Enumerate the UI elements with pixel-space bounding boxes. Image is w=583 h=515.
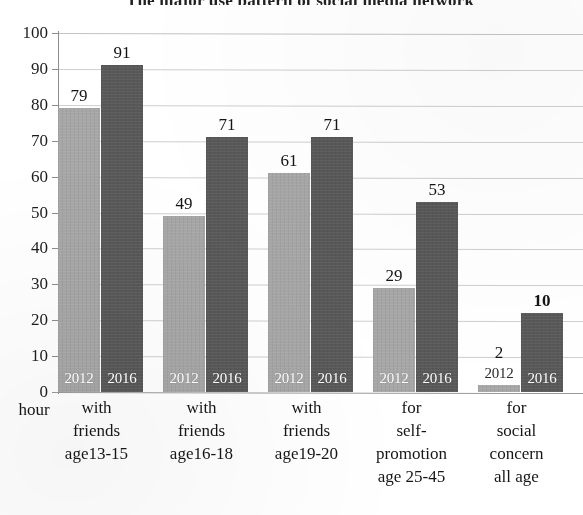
x-axis-category-label-3: withfriendsage19-20	[254, 396, 359, 465]
value-label-2016-5: 10	[509, 292, 575, 309]
bar-2012-1[interactable]: 2012	[58, 108, 100, 392]
bar-year-label: 2016	[101, 371, 143, 386]
y-axis-tick-label: 10	[4, 347, 48, 364]
x-axis-category-label-2: withfriendsage16-18	[149, 396, 254, 465]
category-label-line: for	[464, 396, 569, 419]
category-label-line: age 25-45	[359, 465, 464, 488]
bar-year-label: 2012	[478, 366, 520, 381]
bar-2012-5[interactable]: 2012	[478, 385, 520, 392]
x-axis-category-labels: hour withfriendsage13-15withfriendsage16…	[0, 396, 583, 515]
value-label-2016-1: 91	[89, 44, 155, 61]
y-axis-tick-label: 80	[4, 96, 48, 113]
bar-year-label: 2012	[163, 371, 205, 386]
y-axis-tick-label: 70	[4, 132, 48, 149]
y-axis-tick-label: 90	[4, 60, 48, 77]
bar-year-label: 2016	[416, 371, 458, 386]
y-axis-tick-label: 30	[4, 275, 48, 292]
category-label-line: with	[149, 396, 254, 419]
value-label-2016-4: 53	[404, 181, 470, 198]
bar-year-label: 2012	[268, 371, 310, 386]
bar-year-label: 2016	[206, 371, 248, 386]
plot-area: 2012792012492012612012292012220169120167…	[58, 33, 583, 392]
category-label-line: with	[44, 396, 149, 419]
bar-year-label: 2012	[58, 371, 100, 386]
value-label-2016-3: 71	[299, 116, 365, 133]
bar-2016-2[interactable]: 2016	[206, 137, 248, 392]
bar-2012-2[interactable]: 2012	[163, 216, 205, 392]
x-axis-category-label-1: withfriendsage13-15	[44, 396, 149, 465]
category-label-line: self-	[359, 419, 464, 442]
y-axis-tick-label: 50	[4, 204, 48, 221]
chart-title: The major use pattern of social media ne…	[30, 0, 570, 5]
x-axis-category-label-4: forself-promotionage 25-45	[359, 396, 464, 488]
bar-2016-4[interactable]: 2016	[416, 202, 458, 392]
category-label-line: age13-15	[44, 442, 149, 465]
bar-year-label: 2016	[311, 371, 353, 386]
category-label-line: all age	[464, 465, 569, 488]
x-axis-category-label-5: forsocialconcernall age	[464, 396, 569, 488]
value-label-2016-2: 71	[194, 116, 260, 133]
category-label-line: age16-18	[149, 442, 254, 465]
y-axis-tick-label: 100	[4, 24, 48, 41]
bar-chart-figure: The major use pattern of social media ne…	[0, 0, 583, 515]
y-axis-tick-label: 20	[4, 311, 48, 328]
bar-2012-4[interactable]: 2012	[373, 288, 415, 392]
bar-year-label: 2012	[373, 371, 415, 386]
y-axis-tick-label: 40	[4, 239, 48, 256]
category-label-line: with	[254, 396, 359, 419]
category-label-line: promotion	[359, 442, 464, 465]
x-axis-baseline	[52, 392, 583, 394]
category-label-line: friends	[44, 419, 149, 442]
bar-2016-3[interactable]: 2016	[311, 137, 353, 392]
category-label-line: social	[464, 419, 569, 442]
bar-2012-3[interactable]: 2012	[268, 173, 310, 392]
y-axis-tick-label: 60	[4, 168, 48, 185]
category-label-line: for	[359, 396, 464, 419]
category-label-line: age19-20	[254, 442, 359, 465]
category-label-line: friends	[254, 419, 359, 442]
bar-year-label: 2016	[521, 371, 563, 386]
category-label-line: concern	[464, 442, 569, 465]
bar-2016-5[interactable]: 2016	[521, 313, 563, 392]
bar-2016-1[interactable]: 2016	[101, 65, 143, 392]
category-label-line: friends	[149, 419, 254, 442]
